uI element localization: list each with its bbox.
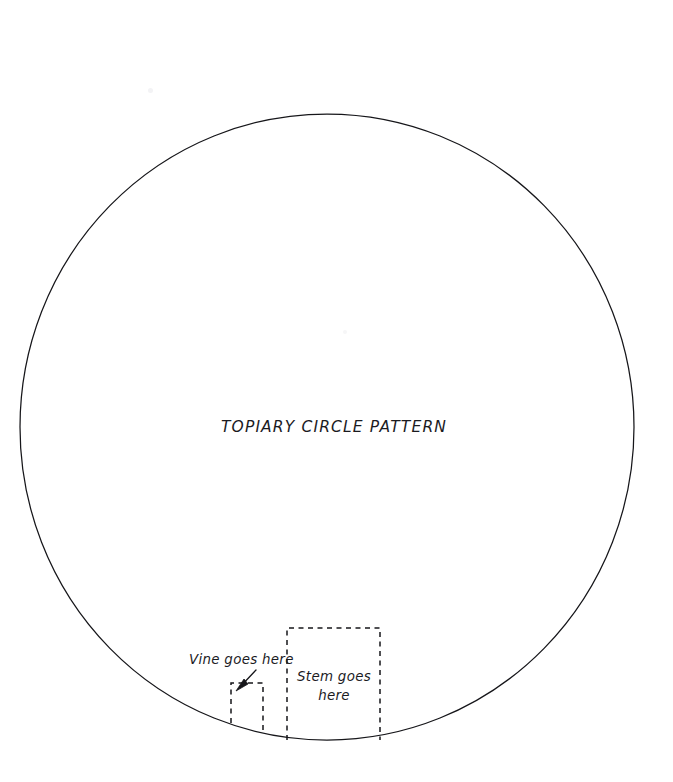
stem-callout-label-line-2: here bbox=[318, 688, 350, 703]
stem-callout-label-line-1: Stem goes bbox=[297, 669, 371, 684]
page-title: TOPIARY CIRCLE PATTERN bbox=[221, 418, 447, 436]
vine-placement-box bbox=[231, 683, 263, 731]
pattern-canvas: TOPIARY CIRCLE PATTERN Vine goes here St… bbox=[0, 0, 673, 782]
vine-callout-label: Vine goes here bbox=[189, 652, 294, 667]
stem-placement-box bbox=[287, 628, 380, 740]
topiary-pattern-sheet: TOPIARY CIRCLE PATTERN Vine goes here St… bbox=[0, 0, 673, 782]
